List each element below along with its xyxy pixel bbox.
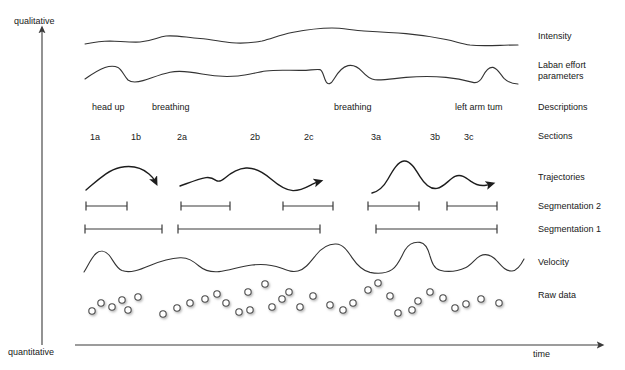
section-label-2c: 2c [304,132,314,143]
trajectory-curve-3 [372,161,490,193]
description-label-breathing-2: breathing [334,102,372,113]
description-label-left-arm-turn: left arm tum [455,102,503,113]
raw-data-point [223,300,229,306]
raw-data-point [340,307,346,313]
raw-data-point [409,307,415,313]
row-label-segmentation-1: Segmentation 1 [538,224,601,235]
raw-data-point [365,287,371,293]
raw-data-point [125,307,131,313]
raw-data-point [98,300,104,306]
y-axis-bottom-label: quantitative [8,347,54,358]
segmentation-bar [283,202,333,211]
section-label-2b: 2b [250,132,260,143]
raw-data-point [478,296,484,302]
segmentation-bar [447,202,497,211]
raw-data-point [375,280,381,286]
raw-data-point [310,293,316,299]
row-label-segmentation-2: Segmentation 2 [538,201,601,212]
raw-data-point [202,296,208,302]
row-label-raw-data: Raw data [538,290,576,301]
raw-data-point [262,281,268,287]
laban-effort-curve [85,65,518,84]
trajectory-curves [86,161,490,193]
section-label-1a: 1a [90,132,100,143]
intensity-curve [85,28,518,46]
diagram-graphics [0,0,625,370]
section-label-2a: 2a [177,132,187,143]
segmentation-bar [86,202,127,211]
description-label-head-up: head up [92,102,125,113]
raw-data-point [109,304,115,310]
raw-data-point [496,300,502,306]
x-axis-label: time [533,349,550,360]
raw-data-point [286,289,292,295]
raw-data-point [89,308,95,314]
raw-data-point [245,289,251,295]
row-label-descriptions: Descriptions [538,102,588,113]
section-label-1b: 1b [131,132,141,143]
segmentation-bar [85,225,162,234]
raw-data-point [187,300,193,306]
segmentation-2-bars [86,202,497,211]
raw-data-point [452,305,458,311]
raw-data-point [395,310,401,316]
segmentation-bar [368,202,419,211]
raw-data-point [119,297,125,303]
segmentation-1-bars [85,225,497,234]
section-label-3c: 3c [464,132,474,143]
velocity-curve [84,242,524,273]
segmentation-bar [181,202,230,211]
raw-data-point [427,289,433,295]
row-label-laban-line2: parameters [538,71,584,82]
trajectory-curve-2 [180,168,318,191]
raw-data-point [297,304,303,310]
raw-data-point [135,294,141,300]
raw-data-point [247,307,253,313]
description-label-breathing-1: breathing [152,102,190,113]
section-label-3a: 3a [371,132,381,143]
raw-data-point [236,309,242,315]
row-label-laban-line1: Laban effort [538,60,586,71]
raw-data-point [440,295,446,301]
segmentation-bar [178,225,320,234]
row-label-sections: Sections [538,131,573,142]
section-label-3b: 3b [430,132,440,143]
raw-data-point [160,311,166,317]
raw-data-point [214,291,220,297]
raw-data-point [350,300,356,306]
row-label-intensity: Intensity [538,31,572,42]
diagram-canvas: qualitative quantitative time Intensity … [0,0,625,370]
raw-data-point [387,293,393,299]
row-label-trajectories: Trajectories [538,172,585,183]
raw-data-point [279,296,285,302]
trajectory-curve-1 [86,167,155,190]
segmentation-bar [376,225,497,234]
y-axis-top-label: qualitative [14,16,55,27]
raw-data-point [463,301,469,307]
raw-data-point [327,302,333,308]
row-label-velocity: Velocity [538,257,569,268]
raw-data-point [174,305,180,311]
raw-data-scatter [89,280,502,317]
raw-data-point [269,304,275,310]
raw-data-point [415,298,421,304]
